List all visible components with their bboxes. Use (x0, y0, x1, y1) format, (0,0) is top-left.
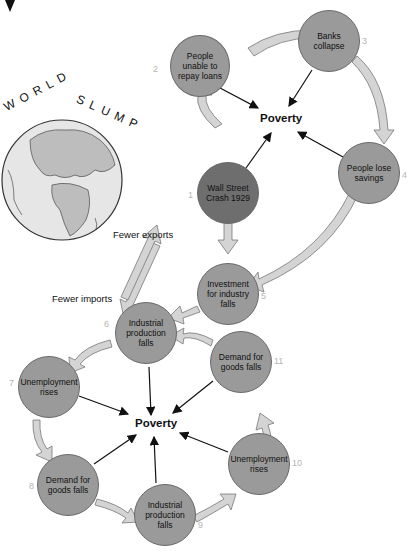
globe-icon (2, 120, 122, 240)
node-unemployment-7: Unemployment rises (18, 356, 80, 418)
node-text: People lose savings (339, 163, 399, 183)
node-text: Industrial production falls (135, 500, 195, 530)
poverty-label-bottom: Poverty (135, 417, 177, 429)
node-people-lose-savings: People lose savings (338, 142, 400, 204)
node-people-unable-repay: People unable to repay loans (170, 35, 230, 97)
node-number: 1 (188, 190, 193, 200)
node-number: 3 (362, 36, 367, 46)
node-number: 11 (274, 356, 283, 366)
node-text: Unemployment rises (226, 454, 291, 474)
node-number: 7 (9, 378, 14, 388)
fewer-exports-label: Fewer exports (113, 229, 173, 240)
node-text: Banks collapse (299, 31, 359, 51)
node-text: People unable to repay loans (171, 51, 229, 81)
corner-marker-icon (5, 0, 15, 12)
node-number: 6 (104, 319, 109, 329)
node-text: Investment for industry falls (198, 279, 258, 309)
node-number: 10 (292, 458, 302, 468)
node-text: Demand for goods falls (38, 475, 98, 495)
node-number: 5 (261, 291, 266, 301)
node-demand-falls-11: Demand for goods falls (210, 331, 272, 393)
node-number: 9 (198, 520, 203, 530)
fewer-imports-label: Fewer imports (52, 293, 112, 304)
node-text: Wall Street Crash 1929 (198, 183, 258, 203)
node-number: 2 (153, 64, 158, 74)
node-number: 8 (29, 481, 34, 491)
node-investment-falls: Investment for industry falls (197, 263, 259, 325)
node-text: Industrial production falls (116, 318, 176, 348)
poverty-label-top: Poverty (260, 112, 302, 124)
node-text: Demand for goods falls (211, 352, 271, 372)
node-number: 4 (402, 170, 407, 180)
node-industrial-production-6: Industrial production falls (115, 302, 177, 364)
node-industrial-production-9: Industrial production falls (134, 484, 196, 546)
node-unemployment-10: Unemployment rises (228, 433, 290, 495)
node-demand-falls-8: Demand for goods falls (37, 454, 99, 516)
node-wall-street-crash: Wall Street Crash 1929 (197, 162, 259, 224)
node-banks-collapse: Banks collapse (298, 10, 360, 72)
node-text: Unemployment rises (16, 377, 81, 397)
